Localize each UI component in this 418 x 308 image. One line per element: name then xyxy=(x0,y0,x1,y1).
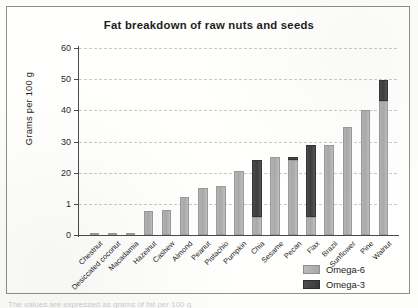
bar-segment-omega-6 xyxy=(361,110,371,235)
scanned-page: Fat breakdown of raw nuts and seeds Gram… xyxy=(0,0,418,308)
bar-segment-omega-6 xyxy=(252,217,262,235)
bar-segment-omega-6 xyxy=(324,145,334,235)
bar-segment-omega-6 xyxy=(288,160,298,235)
bar-segment-omega-6 xyxy=(343,127,353,235)
y-axis-title: Grams per 100 g xyxy=(23,57,34,161)
y-tick-label: 30 xyxy=(47,137,71,147)
x-tick-label: Pecan xyxy=(282,239,303,260)
bar-segment-omega-6 xyxy=(198,188,208,235)
plot-area xyxy=(79,48,397,235)
bar-segment-omega-3 xyxy=(288,157,298,160)
legend-label: Omega-3 xyxy=(326,279,365,290)
y-tick-mark xyxy=(74,204,78,205)
bar-segment-omega-6 xyxy=(108,233,118,235)
x-tick-label: Walnut xyxy=(371,239,394,262)
y-axis-tick-labels: 012030405060 xyxy=(45,7,71,295)
y-tick-label: 40 xyxy=(47,105,71,115)
y-tick-label: 20 xyxy=(47,168,71,178)
y-tick-label: 0 xyxy=(47,230,71,240)
bar-segment-omega-6 xyxy=(379,101,389,235)
y-tick-mark xyxy=(74,79,78,80)
y-tick-label: 1 xyxy=(47,199,71,209)
y-tick-mark xyxy=(74,235,78,236)
bar-segment-omega-6 xyxy=(180,197,190,235)
bar-segment-omega-6 xyxy=(216,186,226,235)
bar-segment-omega-3 xyxy=(379,80,389,101)
legend-swatch-omega-6 xyxy=(303,265,320,274)
bar-segment-omega-6 xyxy=(270,157,280,235)
bar-segment-omega-3 xyxy=(306,145,316,217)
bar-segment-omega-6 xyxy=(306,217,316,235)
legend-item-omega-6[interactable]: Omega-6 xyxy=(303,263,407,276)
bar-segment-omega-6 xyxy=(90,233,100,235)
gridline xyxy=(79,79,397,80)
bar-segment-omega-6 xyxy=(126,233,136,235)
gridline xyxy=(79,110,397,111)
gridline xyxy=(79,48,397,49)
y-tick-label: 60 xyxy=(47,43,71,53)
y-tick-mark xyxy=(74,48,78,49)
y-tick-label: 50 xyxy=(47,74,71,84)
y-tick-mark xyxy=(74,142,78,143)
bar-segment-omega-6 xyxy=(234,171,244,236)
y-tick-mark xyxy=(74,173,78,174)
figure-frame: Fat breakdown of raw nuts and seeds Gram… xyxy=(6,6,410,294)
y-tick-mark xyxy=(74,110,78,111)
legend-swatch-omega-3 xyxy=(303,280,320,289)
x-tick-label: Flax xyxy=(305,239,321,255)
legend-item-omega-3[interactable]: Omega-3 xyxy=(303,278,407,291)
x-axis-line xyxy=(78,235,399,236)
bar-segment-omega-6 xyxy=(162,210,172,235)
page-caption-sliver: The values are expressed as grams of fat… xyxy=(8,300,388,308)
chart-legend: Omega-6Omega-3 xyxy=(303,263,407,293)
bar-segment-omega-3 xyxy=(252,160,262,217)
bar-segment-omega-6 xyxy=(144,211,154,235)
